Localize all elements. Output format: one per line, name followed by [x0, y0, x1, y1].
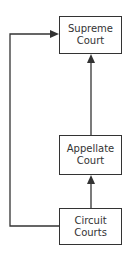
node-label: Supreme [68, 23, 113, 35]
edge-circuit-supreme [10, 34, 59, 226]
node-label: Court [77, 35, 104, 47]
arrowhead-icon [50, 30, 59, 38]
node-label: Circuit [74, 215, 106, 227]
node-label: Courts [74, 227, 107, 239]
node-appellate-court: Appellate Court [59, 135, 122, 175]
node-label: Appellate [67, 143, 114, 155]
node-circuit-courts: Circuit Courts [59, 208, 122, 245]
arrowhead-icon [87, 175, 95, 184]
arrowhead-icon [87, 54, 95, 63]
node-supreme-court: Supreme Court [59, 16, 122, 54]
node-label: Court [77, 155, 104, 167]
